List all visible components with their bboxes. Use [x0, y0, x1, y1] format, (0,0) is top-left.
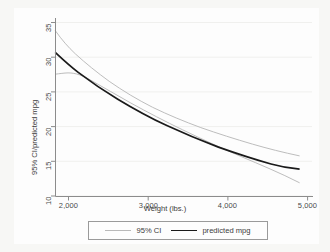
y-tick-label-20: 20 [44, 128, 53, 142]
y-axis-title: 95% CI/predicted mpg [30, 15, 39, 175]
y-tick-label-30: 30 [44, 58, 53, 72]
predicted-curve [55, 52, 299, 169]
ci-lower-curve [55, 73, 299, 183]
legend-label-ci: 95% CI [136, 226, 161, 235]
x-axis-title: Weight (lbs.) [0, 204, 330, 213]
ci-upper-curve [55, 31, 299, 156]
legend-line-predicted-icon [171, 230, 197, 231]
chart-figure: 35 30 25 20 15 10 95% CI/predicted mpg 2… [0, 0, 330, 252]
y-tick-label-25: 25 [44, 93, 53, 107]
plot-canvas [0, 0, 330, 252]
legend-entry-ci: 95% CI [105, 226, 161, 235]
legend-line-ci-icon [105, 230, 131, 231]
x-tick-marks [69, 197, 308, 201]
axis-lines [56, 18, 314, 197]
legend-label-predicted: predicted mpg [202, 226, 250, 235]
y-tick-label-15: 15 [44, 162, 53, 176]
legend-entry-predicted: predicted mpg [171, 226, 250, 235]
gridlines [56, 23, 312, 197]
y-tick-label-35: 35 [44, 24, 53, 38]
chart-legend: 95% CI predicted mpg [88, 221, 268, 240]
